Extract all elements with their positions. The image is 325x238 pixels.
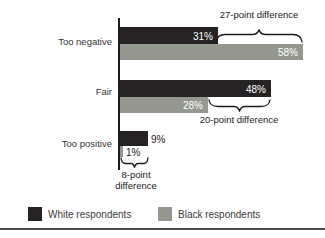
- difference-label-too-negative: 27-point difference: [209, 9, 309, 20]
- figure: Too negative Fair Too positive 31% 58% 2…: [0, 0, 325, 238]
- value-label-black-fair: 28%: [183, 100, 203, 111]
- value-label-black-too-positive: 1%: [126, 147, 140, 158]
- difference-brace-too-positive: [121, 158, 148, 168]
- difference-label-too-positive: 8-point difference: [108, 169, 164, 191]
- difference-brace-too-negative: [216, 29, 302, 42]
- difference-brace-fair: [209, 100, 270, 112]
- value-label-white-too-negative: 31%: [193, 30, 213, 41]
- category-label-too-negative: Too negative: [0, 36, 112, 48]
- legend-label-white-respondents: White respondents: [48, 209, 131, 220]
- bottom-rule: [0, 228, 325, 230]
- category-label-fair: Fair: [0, 86, 112, 98]
- value-label-white-too-positive: 9%: [151, 134, 165, 145]
- value-label-white-fair: 48%: [246, 83, 266, 94]
- bar-black-fair: 28%: [120, 97, 208, 113]
- legend-swatch-white-respondents: [28, 207, 42, 221]
- bar-black-too-negative: 58%: [120, 44, 303, 60]
- value-label-black-too-negative: 58%: [278, 47, 298, 58]
- bar-white-too-negative: 31%: [120, 27, 218, 44]
- legend-swatch-black-respondents: [158, 207, 172, 221]
- difference-label-fair: 20-point difference: [189, 114, 289, 125]
- bar-black-too-positive: [120, 146, 123, 157]
- category-label-too-positive: Too positive: [0, 138, 112, 150]
- bar-white-too-positive: [120, 131, 148, 146]
- bar-white-fair: 48%: [120, 80, 271, 97]
- legend-label-black-respondents: Black respondents: [178, 209, 260, 220]
